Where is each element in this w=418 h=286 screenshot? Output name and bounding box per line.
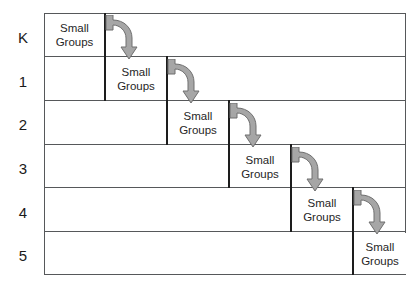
cell-edge-3-left: [228, 144, 230, 188]
cell-edge-1-left: [104, 56, 106, 101]
small-groups-cell-3[interactable]: Small Groups: [230, 146, 290, 187]
row-separator-k-1: [44, 56, 406, 57]
row-separator-2-3: [44, 144, 406, 145]
row-label-2: 2: [8, 117, 38, 132]
small-groups-label-line2: Groups: [56, 35, 94, 49]
small-groups-cell-2[interactable]: Small Groups: [168, 102, 228, 144]
cell-edge-4-right: [352, 187, 354, 232]
small-groups-label-line2: Groups: [117, 79, 155, 93]
cell-edge-k-right: [104, 13, 106, 57]
cell-edge-2-right: [228, 100, 230, 145]
row-label-5: 5: [8, 248, 38, 263]
row-label-k: K: [8, 30, 38, 45]
row-label-4: 4: [8, 205, 38, 220]
small-groups-label-line2: Groups: [179, 123, 217, 137]
small-groups-label-line1: Small: [308, 196, 337, 210]
small-groups-label-line2: Groups: [361, 254, 399, 268]
cell-edge-5-left: [352, 231, 354, 275]
small-groups-cell-4[interactable]: Small Groups: [292, 189, 352, 231]
small-groups-staircase-diagram: K 1 2 3 4 5 Small Groups Small Groups Sm…: [0, 0, 418, 286]
small-groups-cell-5[interactable]: Small Groups: [354, 233, 406, 274]
cell-edge-4-left: [290, 187, 292, 232]
small-groups-label-line1: Small: [60, 21, 89, 35]
small-groups-cell-1[interactable]: Small Groups: [106, 58, 166, 100]
small-groups-label-line1: Small: [184, 109, 213, 123]
small-groups-label-line2: Groups: [303, 210, 341, 224]
small-groups-label-line1: Small: [366, 240, 395, 254]
row-separator-1-2: [44, 100, 406, 101]
row-label-1: 1: [8, 74, 38, 89]
small-groups-label-line1: Small: [122, 65, 151, 79]
small-groups-cell-k[interactable]: Small Groups: [45, 14, 104, 56]
small-groups-label-line1: Small: [246, 153, 275, 167]
cell-edge-1-right: [166, 56, 168, 101]
cell-edge-2-left: [166, 100, 168, 145]
small-groups-label-line2: Groups: [241, 167, 279, 181]
row-label-3: 3: [8, 161, 38, 176]
cell-edge-3-right: [290, 144, 292, 188]
